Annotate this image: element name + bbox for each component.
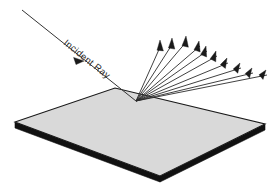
reflected-ray-group [136,36,267,101]
diffuse-reflection-diagram: Incident Ray [0,0,279,195]
arrowhead-ray-6 [210,51,216,62]
incident-ray-label: Incident Ray [62,37,113,81]
reflected-ray-2 [136,43,173,101]
arrowhead-ray-10 [259,70,266,79]
reflected-ray-6 [136,56,217,101]
reflected-ray-4 [136,46,200,101]
arrowhead-ray-2 [168,38,174,49]
diagram-canvas: Incident Ray [0,0,279,195]
reflected-ray-8 [136,68,241,101]
arrowhead-ray-9 [245,68,252,78]
reflected-ray-10 [136,75,267,101]
arrowhead-ray-1 [157,40,163,51]
reflecting-surface [15,88,265,182]
surface-top-face [15,88,265,176]
arrowhead-ray-3 [182,36,188,47]
arrowhead-ray-8 [233,63,240,73]
arrowhead-ray-7 [220,58,227,68]
